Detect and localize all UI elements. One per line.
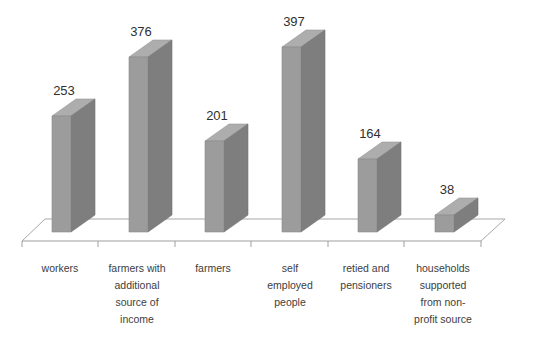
category-labels: workers farmers with additional source o… <box>41 262 472 325</box>
category-label-line: pensioners <box>340 279 391 291</box>
axis-ticks <box>22 241 481 247</box>
value-label: 376 <box>130 24 152 39</box>
category-label-line: self <box>282 262 298 274</box>
category-label-line: supported <box>420 279 467 291</box>
category-label-households-supported-from-non-profit-source: households supported from non- profit so… <box>414 262 472 325</box>
bar-item[interactable] <box>282 30 325 232</box>
chart-floor <box>22 219 505 241</box>
value-label: 253 <box>53 83 75 98</box>
category-label-line: employed <box>267 279 313 291</box>
value-label: 164 <box>359 126 381 141</box>
category-label-line: source of <box>115 296 158 308</box>
category-label-farmers-with-additional-source-of-income: farmers with additional source of income <box>108 262 165 325</box>
category-label-workers: workers <box>41 262 79 274</box>
category-label-line: farmers <box>195 262 231 274</box>
bar-item[interactable] <box>205 124 248 232</box>
bar-item[interactable] <box>129 40 172 232</box>
category-label-self-employed-people: self employed people <box>267 262 313 308</box>
bar-chart-3d: 253 376 201 397 164 38 workers farmers w… <box>0 0 533 354</box>
category-label-line: profit source <box>414 313 472 325</box>
category-label-line: farmers with <box>108 262 165 274</box>
category-label-line: additional <box>115 279 160 291</box>
chart-container: 253 376 201 397 164 38 workers farmers w… <box>0 0 533 354</box>
value-label: 397 <box>283 14 305 29</box>
value-label: 38 <box>440 182 454 197</box>
category-label-line: people <box>274 296 306 308</box>
bar-item[interactable] <box>358 142 401 232</box>
category-label-line: households <box>416 262 470 274</box>
category-label-line: income <box>120 313 154 325</box>
category-label-farmers: farmers <box>195 262 231 274</box>
bar-item[interactable] <box>52 99 95 232</box>
category-label-line: workers <box>41 262 79 274</box>
bar-group <box>52 30 478 232</box>
category-label-line: from non- <box>421 296 466 308</box>
value-label: 201 <box>206 108 228 123</box>
category-label-retied-and-pensioners: retied and pensioners <box>340 262 391 291</box>
category-label-line: retied and <box>343 262 390 274</box>
